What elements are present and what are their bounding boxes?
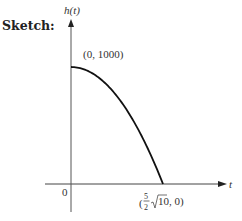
y-axis-arrow-icon: [68, 19, 74, 27]
curve-h-of-t: [71, 67, 163, 184]
x-axis-arrow-icon: [218, 181, 227, 187]
annotation-radicand: 10: [158, 195, 170, 207]
annotation-x-intercept-suffix: , 0): [169, 195, 184, 208]
sketch-graph: h(t) t 0 (0, 1000) ( 5 2 10 , 0): [0, 0, 242, 221]
x-axis-label: t: [229, 178, 233, 190]
origin-label: 0: [62, 186, 68, 198]
annotation-x-intercept: ( 5 2 10 , 0): [139, 192, 184, 212]
annotation-y-intercept: (0, 1000): [83, 48, 124, 61]
annotation-frac-den: 2: [144, 203, 148, 212]
annotation-frac-num: 5: [144, 192, 148, 201]
y-axis-label: h(t): [64, 4, 80, 17]
annotation-x-intercept-prefix: (: [139, 197, 143, 210]
